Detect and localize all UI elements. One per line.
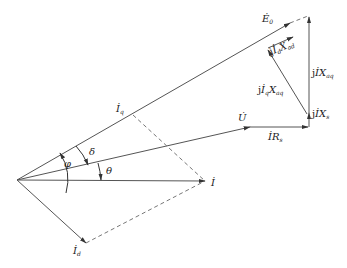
phasor-U xyxy=(17,127,250,180)
label-IRs: İRs xyxy=(267,131,283,143)
angle-arc-theta xyxy=(98,163,101,180)
phasor-jIqXaq xyxy=(268,50,307,114)
label-jIXs: jİXs xyxy=(311,108,329,120)
label-delta: δ xyxy=(89,146,95,157)
label-phi: φ xyxy=(64,158,71,169)
phasor-Iq xyxy=(17,115,133,180)
label-theta: θ xyxy=(106,165,112,176)
label-E0: Ė0 xyxy=(261,13,273,25)
phasor-I xyxy=(17,180,205,181)
angle-arc-delta xyxy=(76,146,88,165)
dashed-Id-to-I xyxy=(86,181,205,243)
label-jIdXad: jİdXad xyxy=(267,37,296,58)
label-jIXaq: jİXaq xyxy=(311,67,334,80)
dashed-Iq-to-I xyxy=(133,115,205,181)
label-U: U̇ xyxy=(238,112,247,123)
label-Iq: İq xyxy=(115,103,124,116)
label-I: İ xyxy=(210,177,216,188)
phasor-diagram: Ė0 jİdXad jİXaq jİqXaq jİXs İRs U̇ İ İq … xyxy=(0,0,347,268)
phasor-Id xyxy=(17,180,86,243)
label-jIqXaq: jİqXaq xyxy=(257,84,284,97)
label-Id: İd xyxy=(72,245,81,257)
phasor-E0 xyxy=(17,16,308,180)
